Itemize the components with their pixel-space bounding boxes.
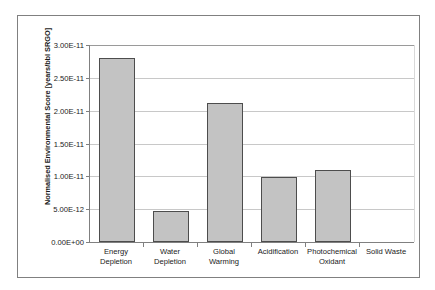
x-axis-tick-mark — [251, 243, 252, 247]
category-label-line: Warming — [197, 257, 251, 267]
x-axis-category-label: Acidification — [251, 247, 305, 257]
category-label-line: Acidification — [251, 247, 305, 257]
category-label-line: Global — [197, 247, 251, 257]
category-label-line: Depletion — [143, 257, 197, 267]
category-label-line: Solid Waste — [359, 247, 413, 257]
y-axis-tick-mark — [86, 242, 90, 243]
bar[interactable] — [261, 177, 298, 242]
bar[interactable] — [153, 211, 190, 242]
bar-slot — [360, 45, 414, 242]
bar-slot — [306, 45, 360, 242]
plot-area: 0.00E+005.00E-121.00E-111.50E-112.00E-11… — [89, 45, 415, 242]
x-axis-tick-mark — [359, 243, 360, 247]
bar-slot — [144, 45, 198, 242]
x-axis-category-label: GlobalWarming — [197, 247, 251, 266]
chart-frame: Normalised Environmental Score [years/bb… — [17, 15, 420, 278]
x-axis-category-label: Solid Waste — [359, 247, 413, 257]
y-axis-tick-label: 3.00E-11 — [54, 41, 84, 50]
bar-slot — [252, 45, 306, 242]
y-axis-tick-label: 0.00E+00 — [51, 238, 84, 247]
y-axis-tick-label: 2.50E-11 — [54, 73, 84, 82]
x-axis-tick-mark — [197, 243, 198, 247]
x-axis-tick-mark — [305, 243, 306, 247]
x-axis-tick-mark — [143, 243, 144, 247]
y-axis-tick-label: 2.00E-11 — [54, 106, 84, 115]
bar[interactable] — [315, 170, 352, 242]
category-label-line: Oxidant — [305, 257, 359, 267]
y-axis-tick-label: 5.00E-12 — [53, 205, 84, 214]
y-axis-title: Normalised Environmental Score [years/bb… — [43, 17, 52, 217]
x-axis-category-label: WaterDepletion — [143, 247, 197, 266]
x-axis-category-label: EnergyDepletion — [89, 247, 143, 266]
bar[interactable] — [99, 58, 136, 242]
category-label-line: Photochemical — [305, 247, 359, 257]
category-label-line: Energy — [89, 247, 143, 257]
bar-slot — [90, 45, 144, 242]
category-label-line: Depletion — [89, 257, 143, 267]
category-label-line: Water — [143, 247, 197, 257]
y-axis-tick-label: 1.50E-11 — [54, 139, 84, 148]
y-axis-tick-label: 1.00E-11 — [54, 172, 84, 181]
x-axis-category-labels: EnergyDepletionWaterDepletionGlobalWarmi… — [89, 247, 413, 279]
x-axis-category-label: PhotochemicalOxidant — [305, 247, 359, 266]
bar-series — [90, 45, 414, 242]
bar[interactable] — [207, 103, 244, 242]
bar-slot — [198, 45, 252, 242]
gridline — [90, 242, 414, 243]
